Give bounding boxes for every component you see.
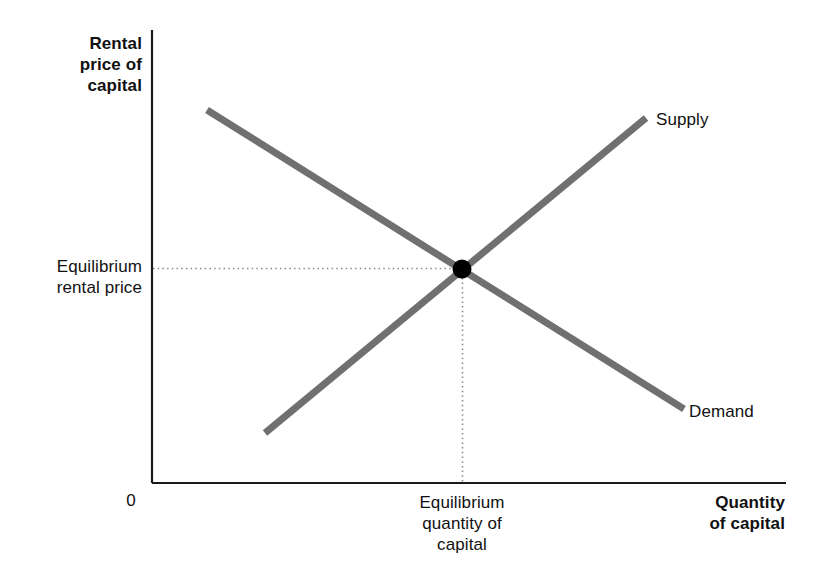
equilibrium-price-label: Equilibrium rental price bbox=[0, 256, 142, 298]
x-axis-title: Quantity of capital bbox=[625, 492, 785, 534]
origin-label: 0 bbox=[119, 490, 143, 511]
demand-curve-label: Demand bbox=[689, 401, 754, 422]
demand-curve bbox=[207, 110, 684, 409]
equilibrium-quantity-label: Equilibrium quantity of capital bbox=[372, 492, 552, 555]
supply-demand-figure: Rental price of capital Equilibrium rent… bbox=[0, 0, 829, 582]
supply-curve-label: Supply bbox=[656, 109, 709, 130]
equilibrium-point bbox=[453, 260, 472, 279]
y-axis-title: Rental price of capital bbox=[0, 33, 142, 96]
